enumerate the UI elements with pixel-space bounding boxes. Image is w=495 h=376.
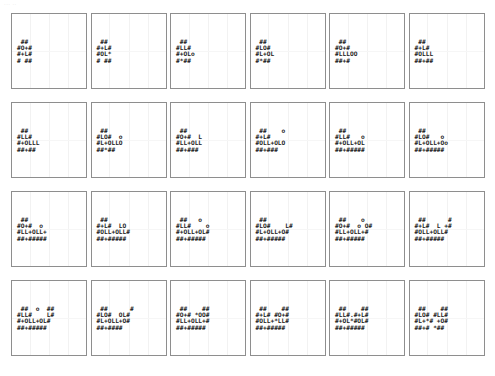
glyph-panel[interactable]: ## #O+# #+L# # ## [11, 13, 87, 89]
glyph-panel[interactable]: ## #LL# #+OLo #*## [170, 13, 246, 89]
glyph-panel[interactable]: ## #LL# #+OLLL ##+## [11, 102, 87, 178]
ascii-art-glyph-block: ## #O+# #LLLOO ##+# [330, 39, 404, 64]
ascii-art-glyph-block: ## #LL# #+OLLL ##+## [12, 128, 86, 153]
glyph-panel[interactable]: ## o #O+# o O# #LL+OLL+# ##+##### [329, 191, 405, 267]
glyph-panel[interactable]: ## o #+L# #OLL+OLO ##+### [250, 102, 326, 178]
glyph-panel[interactable]: ## o ## #LL# L# #+OLL+OL# ##+##### [11, 280, 87, 356]
glyph-panel[interactable]: ## #LO# o #L+OLL+Oo ##+##### [409, 102, 485, 178]
ascii-art-glyph-block: ## ## #O+# *OO# #LL+OLL+# ##+##### [171, 306, 245, 331]
glyph-panel[interactable]: ## #O+# o #LL+OLL+ ##+##### [11, 191, 87, 267]
ascii-art-glyph-block: ## #O+# L #LL+OLL ##+### [171, 128, 245, 153]
ascii-art-glyph-block: ## #O+# o #LL+OLL+ ##+##### [12, 217, 86, 242]
glyph-panel[interactable]: ## ## #LO# #LL# #L+*# +O# ##+# *## [409, 280, 485, 356]
glyph-panel[interactable]: ## #+L# LO #OLL+OLL# ##+##### [91, 191, 167, 267]
glyph-panel[interactable]: ## #LO# o #L+OLLO ##*## [91, 102, 167, 178]
glyph-panel[interactable]: ## #O+# #LLLOO ##+# [329, 13, 405, 89]
glyph-panel[interactable]: ## # #LO# OL# #L+OLL+O# ##+#### [91, 280, 167, 356]
ascii-art-glyph-block: ## ## #+L# #O+# #OLL+*LL# ##+##### [251, 306, 325, 331]
glyph-panel[interactable]: ## #+L# #OLLL ##+## [409, 13, 485, 89]
ascii-art-glyph-block: ## #+L# #OLLL ##+## [410, 39, 484, 64]
ascii-art-glyph-block: ## #LO# o #L+OLLO ##*## [92, 128, 166, 153]
glyph-panel[interactable]: ## #O+# L #LL+OLL ##+### [170, 102, 246, 178]
ascii-art-glyph-block: ## #LO# L# #L+OLL+O# ##+##### [251, 217, 325, 242]
ascii-art-glyph-block: ## #LO# #L+OL #*## [251, 39, 325, 64]
glyph-panel[interactable]: ## ## #O+# *OO# #LL+OLL+# ##+##### [170, 280, 246, 356]
ascii-art-glyph-block: ## o #O+# o O# #LL+OLL+# ##+##### [330, 217, 404, 242]
ascii-art-glyph-block: ## # #+L# L +# #OLL+OLL# ##+##### [410, 217, 484, 242]
ascii-art-glyph-block: ## ## #LO# #LL# #L+*# +O# ##+# *## [410, 306, 484, 331]
ascii-art-glyph-block: ## o ## #LL# L# #+OLL+OL# ##+##### [12, 306, 86, 331]
ascii-art-glyph-block: ## # #LO# OL# #L+OLL+O# ##+#### [92, 306, 166, 331]
ascii-art-glyph-block: ## #O+# #+L# # ## [12, 39, 86, 64]
ascii-art-glyph-block: ## o #LL# o #+OLL+OL# ##+##### [171, 217, 245, 242]
ascii-art-glyph-block: ## #LO# o #L+OLL+Oo ##+##### [410, 128, 484, 153]
ascii-art-glyph-block: ## o #+L# #OLL+OLO ##+### [251, 128, 325, 153]
glyph-panel[interactable]: ## ## #+L# #O+# #OLL+*LL# ##+##### [250, 280, 326, 356]
glyph-panel[interactable]: ## #LL# o #+OLL+OL ##+##### [329, 102, 405, 178]
glyph-panel[interactable]: ## #LO# #L+OL #*## [250, 13, 326, 89]
glyph-panel[interactable]: ## #+L# #OL* # ## [91, 13, 167, 89]
glyph-panel[interactable]: ## #LO# L# #L+OLL+O# ##+##### [250, 191, 326, 267]
glyph-panel[interactable]: ## ## #LL#.#+L# #+OL*#OL# ##+##### [329, 280, 405, 356]
ascii-art-glyph-block: ## #LL# o #+OLL+OL ##+##### [330, 128, 404, 153]
ascii-art-glyph-block: ## #+L# LO #OLL+OLL# ##+##### [92, 217, 166, 242]
ascii-art-glyph-block: ## #LL# #+OLo #*## [171, 39, 245, 64]
corner-label: ··· ·· [4, 1, 17, 7]
ascii-art-glyph-block: ## ## #LL#.#+L# #+OL*#OL# ##+##### [330, 306, 404, 331]
glyph-panel[interactable]: ## o #LL# o #+OLL+OL# ##+##### [170, 191, 246, 267]
panel-grid: ## #O+# #+L# # ## ## #+L# #OL* # ## ## #… [11, 13, 485, 356]
ascii-art-glyph-block: ## #+L# #OL* # ## [92, 39, 166, 64]
glyph-panel[interactable]: ## # #+L# L +# #OLL+OLL# ##+##### [409, 191, 485, 267]
